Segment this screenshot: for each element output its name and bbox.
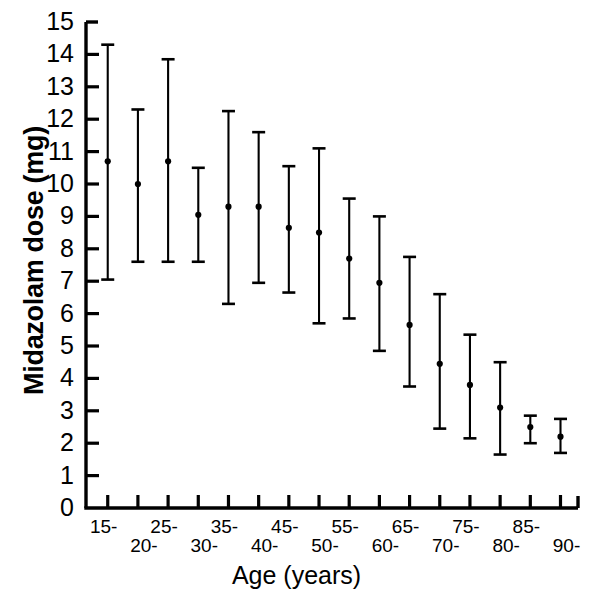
error-bar	[433, 294, 446, 428]
data-point-marker	[497, 404, 503, 410]
error-bar	[494, 362, 507, 454]
error-bar	[403, 257, 416, 387]
error-bar	[554, 419, 567, 453]
data-point-marker	[105, 158, 111, 164]
data-point-marker	[135, 181, 141, 187]
error-bar	[222, 111, 235, 304]
y-axis-ticks	[86, 54, 99, 475]
error-bar-series	[101, 45, 567, 455]
data-point-marker	[467, 382, 473, 388]
error-bar	[463, 335, 476, 439]
error-bar	[524, 416, 537, 444]
error-bar	[192, 168, 205, 262]
data-point-marker	[346, 255, 352, 261]
error-bar	[101, 45, 114, 280]
data-point-marker	[527, 424, 533, 430]
error-bar	[313, 148, 326, 323]
x-axis-ticks	[108, 495, 561, 508]
error-bar	[373, 216, 386, 350]
data-point-marker	[256, 204, 262, 210]
data-point-marker	[557, 434, 563, 440]
data-point-marker	[437, 361, 443, 367]
plot-area	[0, 0, 593, 600]
data-point-marker	[286, 225, 292, 231]
data-point-marker	[406, 322, 412, 328]
data-point-marker	[316, 230, 322, 236]
error-bar	[282, 166, 295, 292]
error-bar	[131, 109, 144, 261]
data-point-marker	[376, 280, 382, 286]
axis-lines	[84, 22, 578, 508]
data-point-marker	[225, 204, 231, 210]
error-bar	[252, 132, 265, 283]
data-point-marker	[195, 212, 201, 218]
error-bar	[162, 59, 175, 262]
data-point-marker	[165, 158, 171, 164]
error-bar	[343, 199, 356, 319]
chart-figure: Midazolam dose (mg) Age (years) 01234567…	[0, 0, 593, 600]
